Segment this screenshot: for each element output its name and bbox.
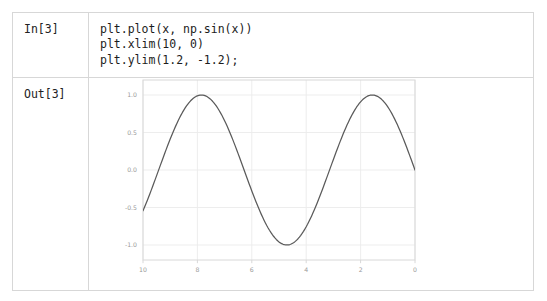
- code-source[interactable]: plt.plot(x, np.sin(x)) plt.xlim(10, 0) p…: [100, 22, 533, 68]
- figure-wrapper: 1086420-1.0-0.50.00.51.0: [89, 78, 533, 290]
- y-tick-label: -0.5: [125, 204, 137, 211]
- screenshot-root: In[3] plt.plot(x, np.sin(x)) plt.xlim(10…: [0, 0, 547, 301]
- output-prompt-label: Out[3]: [13, 78, 89, 290]
- y-tick-label: -1.0: [125, 242, 137, 249]
- sine-plot-svg: 1086420-1.0-0.50.00.51.0: [89, 78, 535, 290]
- input-cell-content[interactable]: plt.plot(x, np.sin(x)) plt.xlim(10, 0) p…: [89, 13, 533, 77]
- output-cell-content: 1086420-1.0-0.50.00.51.0: [89, 78, 533, 290]
- x-tick-label: 8: [195, 266, 199, 273]
- y-tick-label: 1.0: [127, 92, 137, 99]
- matplotlib-figure: 1086420-1.0-0.50.00.51.0: [89, 78, 535, 290]
- input-cell-row: In[3] plt.plot(x, np.sin(x)) plt.xlim(10…: [13, 13, 533, 78]
- x-tick-label: 2: [359, 266, 363, 273]
- x-tick-label: 10: [139, 266, 147, 273]
- output-cell-row: Out[3] 1086420-1.0-0.50.00.51.0: [13, 78, 533, 290]
- y-tick-label: 0.5: [127, 129, 137, 136]
- notebook-cell-table: In[3] plt.plot(x, np.sin(x)) plt.xlim(10…: [12, 12, 534, 291]
- x-tick-label: 4: [304, 266, 308, 273]
- y-tick-label: 0.0: [127, 167, 137, 174]
- x-tick-label: 6: [250, 266, 254, 273]
- input-prompt-label: In[3]: [13, 13, 89, 77]
- x-tick-label: 0: [413, 266, 417, 273]
